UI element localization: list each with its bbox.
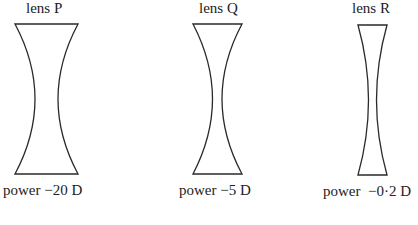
lens-q-shape — [193, 24, 242, 174]
lens-p-label: lens P — [26, 1, 62, 16]
lens-r-shape — [358, 25, 387, 175]
lens-p-shape — [15, 24, 78, 174]
lens-p-power: power −20 D — [3, 183, 82, 198]
lens-r-power: power −0·2 D — [323, 184, 411, 199]
lens-r-label: lens R — [352, 1, 390, 16]
lens-q-power: power −5 D — [179, 183, 251, 198]
lens-q-label: lens Q — [199, 1, 238, 16]
